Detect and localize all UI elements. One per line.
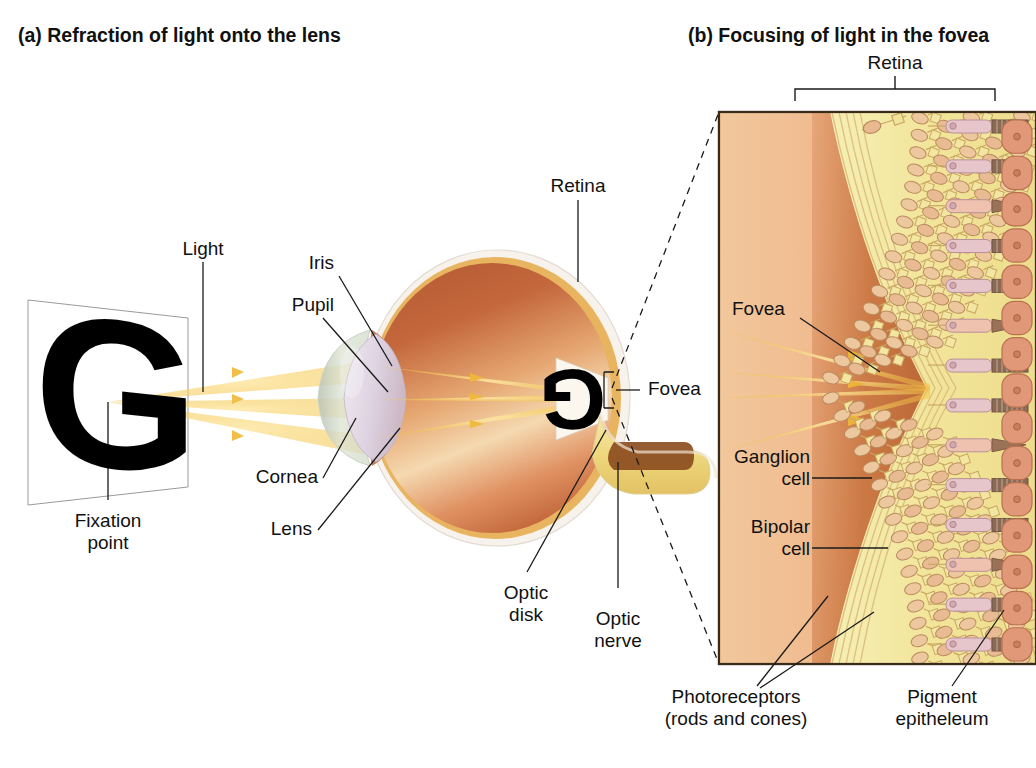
panel-b-artwork [719, 109, 1036, 674]
label-lens: Lens [228, 518, 312, 540]
label-fovea-a: Fovea [648, 378, 701, 400]
retina-bracket [795, 76, 995, 101]
label-pupil: Pupil [238, 294, 334, 316]
label-cornea: Cornea [218, 466, 318, 488]
label-pigment-epithelium: Pigment epitheleum [862, 686, 1022, 730]
label-iris: Iris [248, 252, 334, 274]
label-fovea-b: Fovea [732, 298, 785, 320]
label-retina-bracket: Retina [845, 52, 945, 74]
label-optic-nerve: Optic nerve [562, 608, 674, 652]
retinal-inverted-g: G [560, 356, 606, 440]
stimulus-letter-g: G [34, 288, 184, 504]
label-retina-a: Retina [538, 175, 618, 197]
label-bipolar-cell: Bipolar cell [700, 516, 810, 560]
label-photoreceptors: Photoreceptors (rods and cones) [624, 686, 848, 730]
label-ganglion-cell: Ganglion cell [700, 446, 810, 490]
label-light: Light [168, 238, 238, 260]
figure-canvas: (a) Refraction of light onto the lens (b… [0, 0, 1036, 768]
